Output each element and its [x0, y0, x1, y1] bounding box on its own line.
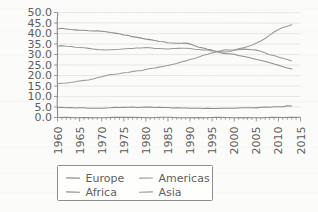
legend-item-label: Americas: [159, 172, 210, 185]
chart-legend[interactable]: EuropeAmericasAfricaAsia: [58, 166, 213, 201]
x-tick-label: 2015: [295, 127, 308, 155]
x-tick-label: 1970: [96, 127, 109, 155]
x-axis-ticks: 1960196519701975198019851990199520002005…: [52, 118, 308, 155]
x-axis-spine: [58, 117, 301, 118]
x-tick-label: 1990: [184, 127, 197, 155]
legend-item-label: Europe: [86, 172, 125, 185]
x-tick-label: 1975: [118, 127, 131, 155]
x-tick-label: 1965: [74, 127, 87, 155]
x-tick-label: 1985: [162, 127, 175, 155]
x-tick-label: 1980: [140, 127, 153, 155]
y-tick-label: 50.0: [28, 6, 53, 19]
legend-item-label: Africa: [86, 186, 117, 199]
x-tick-label: 2005: [250, 127, 263, 155]
data-series-group: [57, 25, 292, 109]
line-chart: 0.05.010.015.020.025.030.035.040.045.050…: [0, 0, 318, 212]
x-tick-label: 1960: [52, 127, 65, 155]
gridlines: [58, 13, 301, 118]
x-tick-label: 2000: [228, 127, 241, 155]
y-axis-ticks: 0.05.010.015.020.025.030.035.040.045.050…: [28, 6, 58, 124]
series-line-americas: [58, 46, 292, 61]
x-tick-label: 1995: [206, 127, 219, 155]
x-tick-label: 2010: [272, 127, 285, 155]
y-axis-spine: [57, 12, 58, 117]
legend-item-label: Asia: [159, 186, 182, 199]
